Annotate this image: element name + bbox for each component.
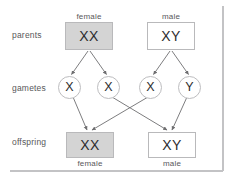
son-sex-label: male (142, 160, 202, 168)
gamete-circle-egg-x-2: X (97, 76, 120, 99)
punnett-inheritance-diagram: parents gametes offspring female XX male… (0, 0, 238, 181)
row-label-offspring: offspring (12, 138, 46, 147)
offspring-genotype-box-daughter: XX (66, 132, 114, 158)
father-genotype-text: XY (161, 29, 181, 43)
parent-genotype-box-father: XY (147, 22, 195, 50)
father-sex-label: male (141, 13, 201, 21)
mother-sex-label: female (59, 13, 119, 21)
frame-bottom-line (10, 170, 223, 172)
arrow-mother-to-egg1 (72, 51, 89, 75)
gamete-allele-egg-x-1: X (65, 81, 73, 94)
row-label-parents: parents (12, 31, 42, 40)
gamete-allele-sperm-y: Y (185, 81, 193, 94)
son-genotype-text: XY (162, 138, 182, 152)
arrow-father-to-spermx (154, 51, 171, 75)
arrow-spermy-to-son (172, 97, 187, 130)
gamete-circle-egg-x-1: X (58, 76, 81, 99)
parent-genotype-box-mother: XX (65, 22, 113, 50)
gamete-circle-sperm-x: X (139, 76, 162, 99)
gamete-circle-sperm-y: Y (178, 76, 201, 99)
frame-right-line (222, 6, 224, 171)
row-label-gametes: gametes (12, 84, 46, 93)
daughter-sex-label: female (60, 160, 120, 168)
mother-genotype-text: XX (79, 29, 99, 43)
arrow-egg1-to-daughter (73, 97, 87, 130)
gamete-allele-egg-x-2: X (104, 81, 112, 94)
arrow-mother-to-egg2 (90, 51, 107, 75)
daughter-genotype-text: XX (80, 138, 100, 152)
gamete-allele-sperm-x: X (146, 81, 154, 94)
arrow-father-to-spermy (172, 51, 189, 75)
offspring-genotype-box-son: XY (148, 132, 196, 158)
